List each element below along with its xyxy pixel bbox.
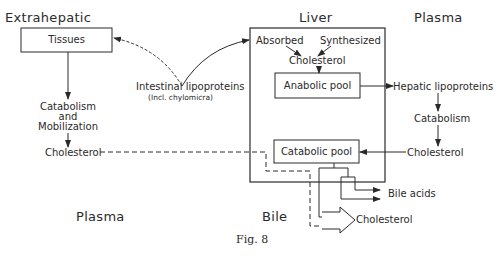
bile-acids-branch	[334, 168, 380, 199]
catabolism-right-label: Catabolism	[414, 113, 470, 125]
hepatic-lipoproteins-label: Hepatic lipoproteins	[393, 81, 493, 93]
mobilization-label: Mobilization	[28, 121, 108, 133]
liver-box	[250, 28, 385, 182]
region-extrahepatic-label: Extrahepatic	[5, 10, 91, 25]
region-plasma-bottom-label: Plasma	[76, 209, 125, 224]
synthesized-label: Synthesized	[320, 35, 381, 47]
catabolic-pool-label: Catabolic pool	[274, 146, 359, 158]
cholesterol-liver-label: Cholesterol	[289, 55, 345, 67]
intestinal-to-liver-arrow	[182, 40, 249, 86]
bile-acids-label: Bile acids	[388, 188, 436, 200]
region-liver-label: Liver	[299, 10, 332, 25]
cholesterol-left-label: Cholesterol	[45, 147, 101, 159]
bile-cholesterol-hollow-arrow	[322, 207, 355, 233]
region-bile-label: Bile	[262, 209, 287, 224]
cholesterol-right-label: Cholesterol	[407, 147, 463, 159]
figure-caption: Fig. 8	[236, 234, 268, 246]
cholesterol-bile-label: Cholesterol	[356, 214, 412, 226]
catabolic-output-trunk	[319, 163, 334, 217]
bile-acids-branch-2	[348, 177, 380, 190]
intestinal-lipoproteins-label: Intestinal lipoproteins	[136, 81, 244, 93]
tissues-label: Tissues	[21, 34, 112, 46]
intestinal-to-tissues-dashed-arrow	[114, 38, 182, 86]
absorbed-label: Absorbed	[256, 35, 303, 47]
region-plasma-top-label: Plasma	[414, 10, 463, 25]
anabolic-pool-label: Anabolic pool	[275, 80, 360, 92]
intestinal-note-label: (Incl. chylomicra)	[148, 93, 213, 102]
